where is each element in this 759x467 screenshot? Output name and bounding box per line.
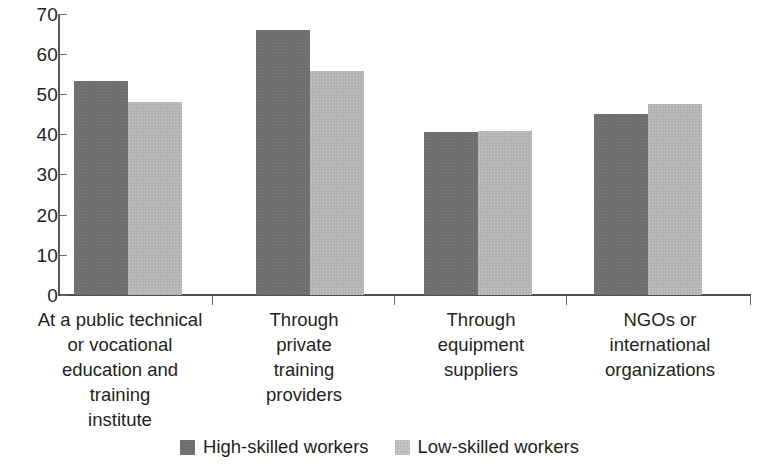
bar-high-skilled-1 <box>74 81 128 295</box>
y-axis-label-50: 50 <box>18 85 58 104</box>
bar-high-skilled-4 <box>594 114 648 295</box>
category-label-line: organizations <box>568 357 752 382</box>
legend-swatch-icon-low-skilled <box>395 440 410 455</box>
y-axis-label-40: 40 <box>18 125 58 144</box>
category-label-line: providers <box>216 382 392 407</box>
legend-label-high-skilled: High-skilled workers <box>203 437 369 457</box>
bar-low-skilled-4 <box>648 104 702 295</box>
x-axis-separator-3 <box>566 296 567 305</box>
legend-swatch-icon-high-skilled <box>180 440 195 455</box>
x-axis-separator-2 <box>394 296 395 305</box>
category-label-line: Through <box>216 307 392 332</box>
y-axis-label-20: 20 <box>18 206 58 225</box>
legend-item-high-skilled: High-skilled workers <box>180 437 369 457</box>
y-axis-tick-0 <box>60 295 67 296</box>
x-axis-category-label-1: At a public technical or vocational educ… <box>28 307 212 432</box>
bar-chart: 70 60 50 40 30 20 10 0 At a public techn… <box>0 0 759 467</box>
category-label-line: equipment <box>396 332 566 357</box>
legend-label-low-skilled: Low-skilled workers <box>418 437 579 457</box>
x-axis-category-label-4: NGOs or international organizations <box>568 307 752 382</box>
x-axis-category-label-3: Through equipment suppliers <box>396 307 566 382</box>
category-label-line: international <box>568 332 752 357</box>
category-label-line: Through <box>396 307 566 332</box>
category-label-line: private <box>216 332 392 357</box>
bar-high-skilled-2 <box>256 30 310 295</box>
bar-low-skilled-2 <box>310 71 364 295</box>
bar-low-skilled-3 <box>478 131 532 295</box>
category-label-line: training <box>28 382 212 407</box>
x-axis-category-label-2: Through private training providers <box>216 307 392 407</box>
category-label-line: At a public technical <box>28 307 212 332</box>
category-label-line: training <box>216 357 392 382</box>
plot-area <box>58 14 750 295</box>
bar-high-skilled-3 <box>424 132 478 295</box>
x-axis-separator-1 <box>212 296 213 305</box>
y-axis-label-60: 60 <box>18 45 58 64</box>
chart-legend: High-skilled workers Low-skilled workers <box>0 437 759 457</box>
category-label-line: NGOs or <box>568 307 752 332</box>
bar-low-skilled-1 <box>128 102 182 295</box>
y-axis-label-0: 0 <box>18 286 58 305</box>
category-label-line: or vocational <box>28 332 212 357</box>
legend-item-low-skilled: Low-skilled workers <box>395 437 579 457</box>
x-axis-separator-4 <box>750 296 751 305</box>
category-label-line: suppliers <box>396 357 566 382</box>
category-label-line: education and <box>28 357 212 382</box>
y-axis-label-10: 10 <box>18 246 58 265</box>
category-label-line: institute <box>28 407 212 432</box>
y-axis-label-30: 30 <box>18 165 58 184</box>
y-axis-label-70: 70 <box>18 5 58 24</box>
